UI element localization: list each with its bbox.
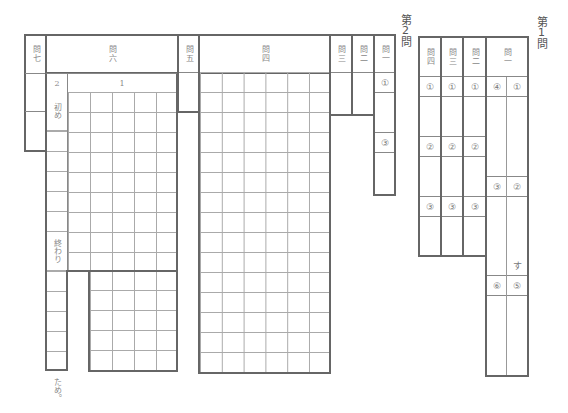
s1-q1-header: 問一 bbox=[487, 38, 527, 77]
s1-q1-header-text: 問一 bbox=[502, 48, 513, 66]
q6-grid-lower[interactable] bbox=[88, 270, 178, 372]
s1-q2-answer-3[interactable] bbox=[464, 217, 485, 255]
q1-header: 問一 bbox=[375, 36, 394, 73]
q4-header: 問四 bbox=[200, 36, 329, 72]
q6-part1-label: 1 bbox=[67, 73, 178, 93]
s1-q1-item-4: ④ bbox=[487, 77, 506, 97]
s1-q2-answer-1[interactable] bbox=[464, 97, 485, 137]
section1-label: 第1問 bbox=[535, 16, 547, 48]
s1-q1-answer-4[interactable] bbox=[487, 97, 506, 177]
s1-q2-header-text: 問二 bbox=[469, 48, 480, 66]
q2-header: 問二 bbox=[353, 36, 373, 73]
section2-label: 第2問 bbox=[399, 14, 411, 46]
q6-grid-upper[interactable] bbox=[67, 92, 178, 271]
s1-q3-item-1: ① bbox=[442, 77, 462, 97]
q1-header-text: 問一 bbox=[379, 45, 390, 63]
s1-q1-answer-3[interactable] bbox=[487, 197, 506, 276]
s1-q1-item-2: ② bbox=[507, 177, 527, 197]
q7-header-text: 問七 bbox=[30, 45, 41, 63]
s1-q2-answer-2[interactable] bbox=[464, 157, 485, 197]
q6-end-text: 終わり bbox=[52, 239, 63, 263]
q2-header-text: 問二 bbox=[358, 45, 369, 63]
q7-answer-2[interactable] bbox=[25, 112, 46, 151]
q6-end-label: 終わり bbox=[47, 231, 67, 271]
s1-q4-answer-3[interactable] bbox=[420, 217, 440, 255]
s1-q1-answer-6[interactable] bbox=[487, 296, 506, 375]
s1-q1-answer-2[interactable]: す bbox=[507, 197, 527, 276]
q7-header: 問七 bbox=[25, 35, 46, 74]
q1-item-3-answer[interactable] bbox=[375, 153, 394, 194]
s1-q1-item-5: ⑤ bbox=[507, 276, 527, 296]
s1-q3-answer-3[interactable] bbox=[442, 217, 462, 255]
s1-q1-item-3: ③ bbox=[487, 177, 506, 197]
s1-q3-item-2: ② bbox=[442, 137, 462, 157]
q6-suffix: ため。 bbox=[51, 378, 62, 402]
s1-q1-item-6: ⑥ bbox=[487, 276, 506, 296]
s1-q2-item-2: ② bbox=[464, 137, 485, 157]
s1-q4-answer-2[interactable] bbox=[420, 157, 440, 197]
q6-step-vline bbox=[66, 270, 68, 371]
q5-answer[interactable] bbox=[179, 74, 198, 111]
q7-answer-1[interactable] bbox=[25, 74, 46, 112]
q6-header-text: 問六 bbox=[107, 45, 118, 63]
q6-start-text: 初め bbox=[52, 103, 63, 119]
s1-q1-item-1: ① bbox=[507, 77, 527, 97]
s1-q1-answer-1[interactable] bbox=[507, 97, 527, 177]
s1-q3-header-text: 問三 bbox=[447, 48, 458, 66]
s1-q3-answer-1[interactable] bbox=[442, 97, 462, 137]
q6-part2-label: 2 bbox=[45, 73, 68, 93]
q3-header-text: 問三 bbox=[336, 45, 347, 63]
s1-q3-answer-2[interactable] bbox=[442, 157, 462, 197]
s1-q3-header: 問三 bbox=[442, 38, 462, 77]
q6-start-label: 初め bbox=[47, 92, 67, 131]
s1-q4-item-2: ② bbox=[420, 137, 440, 157]
q5-header: 問五 bbox=[179, 36, 198, 73]
q2-answer[interactable] bbox=[353, 74, 373, 114]
q4-grid[interactable] bbox=[198, 72, 331, 374]
s1-q3-item-3: ③ bbox=[442, 197, 462, 217]
s1-q2-item-1: ① bbox=[464, 77, 485, 97]
q6-header: 問六 bbox=[47, 36, 177, 72]
q4-header-text: 問四 bbox=[259, 45, 270, 63]
s1-q1-answer-5[interactable] bbox=[507, 296, 527, 375]
s1-q2-item-3: ③ bbox=[464, 197, 485, 217]
q3-header: 問三 bbox=[331, 36, 351, 73]
q1-item-3-label: ③ bbox=[375, 133, 394, 153]
q5-header-text: 問五 bbox=[183, 45, 194, 63]
q1-item-1-label: ① bbox=[375, 73, 394, 93]
q1-item-1-answer[interactable] bbox=[375, 93, 394, 133]
q6-step-line bbox=[67, 270, 90, 272]
q3-answer[interactable] bbox=[331, 74, 351, 114]
s1-q4-answer-1[interactable] bbox=[420, 97, 440, 137]
s1-q4-item-3: ③ bbox=[420, 197, 440, 217]
s1-q4-item-1: ① bbox=[420, 77, 440, 97]
s1-q4-header-text: 問四 bbox=[425, 48, 436, 66]
s1-q2-header: 問二 bbox=[464, 38, 485, 77]
s1-q4-header: 問四 bbox=[420, 38, 440, 77]
s1-q1-suffix: す bbox=[513, 259, 522, 272]
